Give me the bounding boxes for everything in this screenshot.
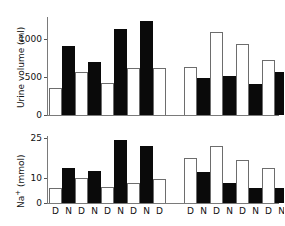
bar-urine-volume-group-right-2	[210, 32, 223, 115]
bar-urine-volume-group-left-6	[127, 68, 140, 115]
bar-sodium-group-right-4	[236, 160, 249, 203]
bar-sodium-group-left-5	[114, 140, 127, 203]
x-tick-labels-sodium: DNDNDNDNDDNDNDNDN	[48, 206, 279, 222]
bar-urine-volume-group-left-5	[114, 29, 127, 115]
bar-sodium-group-left-0	[49, 188, 62, 203]
figure-root: Urine volume (ml) 1000 500 0 Na+ (mmol) …	[0, 0, 284, 226]
bar-sodium-group-right-2	[210, 146, 223, 203]
x-tick-label-5: N	[115, 206, 127, 216]
x-tick-label-9: D	[185, 206, 197, 216]
x-tick-label-10: N	[198, 206, 210, 216]
bar-sodium-group-left-6	[127, 183, 140, 203]
y-tick-label-sodium-25: 25	[20, 133, 42, 143]
x-tick-label-4: D	[102, 206, 114, 216]
x-axis-line-sodium	[47, 203, 279, 204]
x-tick-label-15: D	[263, 206, 275, 216]
x-tick-label-6: D	[128, 206, 140, 216]
y-tick-label-urine-1000: 1000	[18, 34, 42, 44]
bar-sodium-group-left-4	[101, 187, 114, 203]
y-tick-label-sodium-10: 10	[20, 173, 42, 183]
y-axis-label-sodium-superscript: +	[14, 190, 22, 196]
bar-sodium-group-left-7	[140, 146, 153, 203]
bar-sodium-group-right-5	[249, 188, 262, 203]
x-tick-label-12: N	[224, 206, 236, 216]
bar-urine-volume-group-left-8	[153, 68, 166, 115]
bar-urine-volume-group-right-0	[184, 67, 197, 115]
x-axis-line-urine	[47, 115, 279, 116]
x-tick-label-3: N	[89, 206, 101, 216]
y-tick-label-urine-0: 0	[18, 110, 42, 120]
panel-sodium: Na+ (mmol) 25 10 0 DNDNDNDNDDNDNDNDN	[0, 126, 284, 226]
x-tick-label-14: N	[250, 206, 262, 216]
bar-sodium-group-right-0	[184, 158, 197, 203]
bar-urine-volume-group-right-1	[197, 78, 210, 115]
bar-urine-volume-group-left-3	[88, 62, 101, 115]
bar-sodium-group-left-8	[153, 179, 166, 203]
bar-urine-volume-group-right-4	[236, 44, 249, 115]
y-tick-label-urine-500: 500	[18, 72, 42, 82]
x-tick-label-11: D	[211, 206, 223, 216]
bar-sodium-group-right-7	[275, 188, 284, 203]
bar-urine-volume-group-right-6	[262, 60, 275, 115]
x-tick-label-16: N	[276, 206, 285, 216]
bar-sodium-group-right-1	[197, 172, 210, 203]
bar-urine-volume-group-left-0	[49, 88, 62, 115]
bar-sodium-group-left-1	[62, 168, 75, 203]
x-tick-label-13: D	[237, 206, 249, 216]
x-tick-label-7: N	[141, 206, 153, 216]
panel-urine-volume: Urine volume (ml) 1000 500 0	[0, 0, 284, 122]
x-tick-label-2: D	[76, 206, 88, 216]
bar-urine-volume-group-right-7	[275, 72, 284, 115]
plot-area-sodium	[48, 136, 279, 203]
bar-sodium-group-left-2	[75, 178, 88, 203]
bar-urine-volume-group-left-2	[75, 72, 88, 115]
bar-urine-volume-group-left-1	[62, 46, 75, 115]
bar-sodium-group-left-3	[88, 171, 101, 203]
bar-urine-volume-group-left-4	[101, 83, 114, 115]
bar-urine-volume-group-right-5	[249, 84, 262, 115]
bar-sodium-group-right-6	[262, 168, 275, 203]
plot-area-urine	[48, 15, 279, 115]
y-tick-label-sodium-0: 0	[20, 198, 42, 208]
x-tick-label-1: N	[63, 206, 75, 216]
bar-urine-volume-group-right-3	[223, 76, 236, 115]
bar-urine-volume-group-left-7	[140, 21, 153, 115]
x-tick-label-0: D	[50, 206, 62, 216]
x-tick-label-8: D	[154, 206, 166, 216]
bar-sodium-group-right-3	[223, 183, 236, 203]
